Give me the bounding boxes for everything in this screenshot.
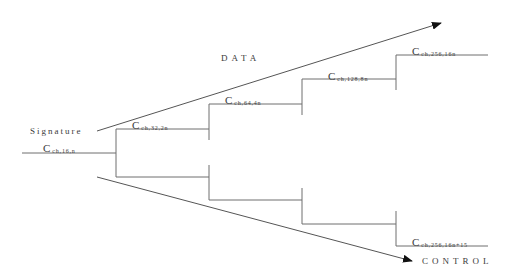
node-256-lower-sub: ch,256,16n+15 bbox=[421, 242, 467, 248]
node-256-lower-main: C bbox=[412, 236, 419, 248]
node-64-main: C bbox=[225, 94, 232, 106]
node-64-sub: ch,64,4n bbox=[234, 100, 261, 106]
node-label-64: Cch,64,4n bbox=[225, 91, 261, 107]
node-label-256-upper: Cch,256,16n bbox=[412, 42, 456, 58]
signature-title: Signature bbox=[30, 127, 83, 136]
data-label: DATA bbox=[221, 54, 260, 63]
node-256-upper-sub: ch,256,16n bbox=[421, 51, 456, 57]
control-label: CONTROL bbox=[422, 257, 493, 266]
root-node-label: Cch,16,n bbox=[43, 139, 76, 155]
node-label-128: Cch,128,8n bbox=[328, 67, 368, 83]
data-arrow bbox=[97, 23, 441, 131]
node-256-upper-main: C bbox=[412, 45, 419, 57]
node-32-sub: ch,32,2n bbox=[141, 125, 168, 131]
root-node-sub: ch,16,n bbox=[52, 148, 75, 154]
root-node-main: C bbox=[43, 142, 50, 154]
node-label-32: Cch,32,2n bbox=[132, 116, 168, 132]
control-arrow bbox=[97, 177, 412, 261]
node-128-main: C bbox=[328, 70, 335, 82]
node-label-256-lower: Cch,256,16n+15 bbox=[412, 233, 468, 249]
node-32-main: C bbox=[132, 119, 139, 131]
node-128-sub: ch,128,8n bbox=[337, 76, 368, 82]
